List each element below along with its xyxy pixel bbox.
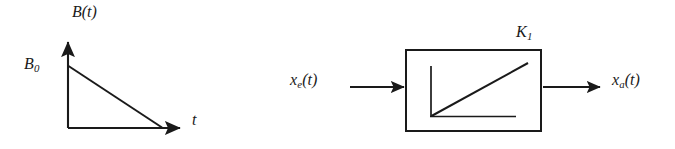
decaying-ramp-curve (69, 66, 163, 128)
linear-gain-ramp-icon (430, 63, 528, 117)
y-axis-label: B(t) (72, 4, 97, 20)
b-zero-subscript: 0 (34, 62, 40, 74)
gain-block-diagram-group (350, 50, 600, 131)
output-tail: (t) (625, 71, 640, 88)
gain-block-label: K1 (516, 24, 532, 42)
gain-subscript: 1 (527, 30, 533, 42)
gain-block-rectangle (406, 50, 541, 131)
input-tail: (t) (302, 71, 317, 88)
b-zero-intercept-label: B0 (24, 56, 39, 74)
decaying-ramp-plot-group (68, 42, 180, 128)
output-signal-label: xa(t) (612, 72, 640, 90)
gain-base: K (516, 23, 527, 40)
figure-canvas: B(t) B0 t xe(t) K1 xa(t) (0, 0, 675, 149)
b-zero-base: B (24, 55, 34, 72)
input-signal-label: xe(t) (290, 72, 317, 90)
x-axis-label: t (192, 112, 196, 128)
figure-vector-layer (0, 0, 675, 149)
